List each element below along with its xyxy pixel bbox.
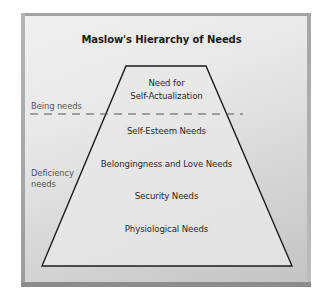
level-self-esteem: Self-Esteem Needs — [0, 125, 323, 138]
level-self-actualization-line1: Need for — [0, 77, 323, 90]
being-needs-label: Being needs — [31, 101, 82, 112]
diagram-title: Maslow's Hierarchy of Needs — [0, 34, 323, 45]
level-security: Security Needs — [0, 190, 323, 203]
deficiency-needs-label-line2: needs — [31, 179, 56, 190]
level-physiological: Physiological Needs — [0, 223, 323, 236]
deficiency-needs-label-line1: Deficiency — [31, 168, 74, 179]
